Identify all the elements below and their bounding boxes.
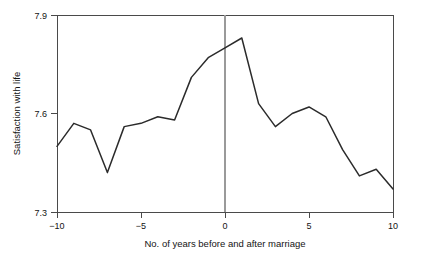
y-tick-label-bottom: 7.3 bbox=[34, 208, 47, 218]
chart-figure: 7.9 7.6 7.3 −10 −5 0 5 10 No. of years b… bbox=[0, 0, 423, 262]
x-tick-label--10: −10 bbox=[49, 221, 64, 231]
satisfaction-with-life-line-chart: 7.9 7.6 7.3 −10 −5 0 5 10 No. of years b… bbox=[0, 0, 423, 262]
x-tick-label-10: 10 bbox=[388, 221, 398, 231]
y-tick-label-mid: 7.6 bbox=[34, 109, 47, 119]
y-axis-title: Satisfaction with life bbox=[11, 72, 22, 155]
x-tick-label-0: 0 bbox=[222, 221, 227, 231]
x-axis-title: No. of years before and after marriage bbox=[144, 238, 305, 249]
y-tick-label-top: 7.9 bbox=[34, 11, 47, 21]
x-tick-label-5: 5 bbox=[306, 221, 311, 231]
x-tick-label--5: −5 bbox=[136, 221, 146, 231]
